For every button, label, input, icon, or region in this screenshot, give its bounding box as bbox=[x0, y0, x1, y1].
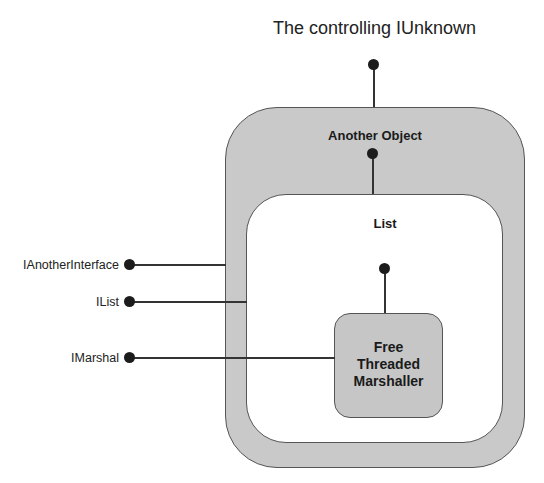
list-iunknown-connector bbox=[384, 269, 386, 314]
ftm-title-line-1: Free bbox=[334, 339, 443, 355]
ftm-title-line-2: Threaded bbox=[334, 356, 443, 372]
ilist-connector bbox=[130, 301, 247, 303]
ilist-dot-icon bbox=[124, 296, 135, 307]
imarshal-connector bbox=[130, 357, 335, 359]
list-iunknown-dot-icon bbox=[379, 263, 390, 274]
controlling-iunknown-dot-icon bbox=[368, 59, 379, 70]
imarshal-dot-icon bbox=[124, 352, 135, 363]
ianotherinterface-connector bbox=[130, 264, 226, 266]
ilist-label: IList bbox=[96, 295, 119, 309]
ianotherinterface-dot-icon bbox=[124, 259, 135, 270]
ftm-title-line-3: Marshaller bbox=[334, 373, 443, 389]
another-object-iunknown-connector bbox=[372, 154, 374, 195]
ianotherinterface-label: IAnotherInterface bbox=[23, 258, 119, 272]
controlling-iunknown-label: The controlling IUnknown bbox=[273, 18, 476, 39]
diagram-canvas: The controlling IUnknown Another Object … bbox=[0, 0, 544, 483]
controlling-iunknown-connector bbox=[373, 65, 375, 108]
another-object-title: Another Object bbox=[300, 128, 450, 143]
list-object-title: List bbox=[335, 216, 435, 231]
imarshal-label: IMarshal bbox=[71, 351, 119, 365]
another-object-iunknown-dot-icon bbox=[367, 148, 378, 159]
